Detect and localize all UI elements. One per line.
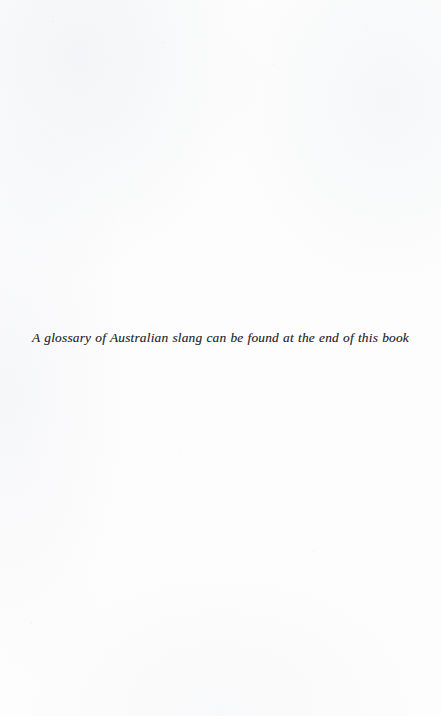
paper-grain-texture — [0, 0, 441, 716]
glossary-note-line: A glossary of Australian slang can be fo… — [0, 328, 441, 347]
book-page: A glossary of Australian slang can be fo… — [0, 0, 441, 716]
glossary-note-text: A glossary of Australian slang can be fo… — [32, 330, 409, 347]
